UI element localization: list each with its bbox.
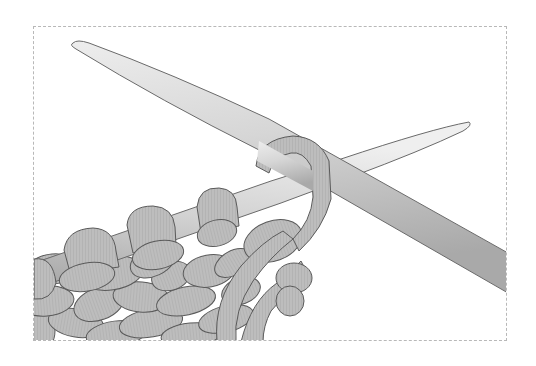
knitting-illustration <box>33 26 507 341</box>
illustration-stage <box>0 0 536 366</box>
illustration-frame <box>33 26 507 341</box>
